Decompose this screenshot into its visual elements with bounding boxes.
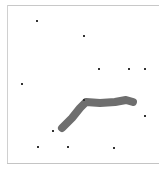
dot-marker: [52, 130, 54, 132]
dot-marker: [83, 35, 85, 37]
dot-marker: [144, 68, 146, 70]
dot-marker: [67, 146, 69, 148]
dot-marker: [83, 99, 85, 101]
dot-marker: [21, 83, 23, 85]
dot-marker: [98, 68, 100, 70]
dot-marker: [144, 115, 146, 117]
dot-markers: [21, 20, 146, 149]
brush-stroke-path: [62, 100, 133, 128]
dot-marker: [128, 68, 130, 70]
dot-marker: [113, 147, 115, 149]
drawing-canvas[interactable]: [0, 0, 159, 170]
brush-stroke: [62, 100, 133, 128]
drawing-surface[interactable]: [0, 0, 159, 170]
dot-marker: [37, 146, 39, 148]
dot-marker: [36, 20, 38, 22]
